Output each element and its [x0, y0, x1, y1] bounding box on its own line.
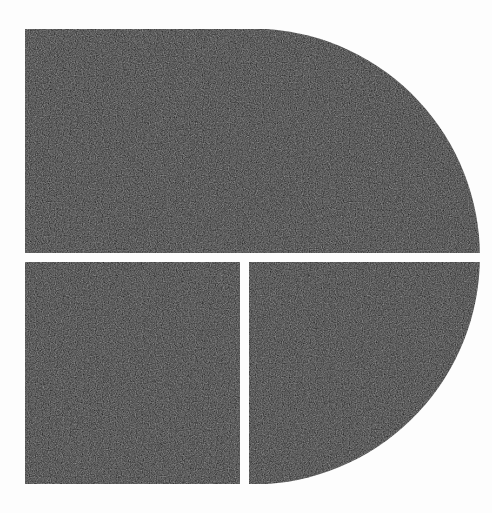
logo-mark: Stylized letter D logo composed of three… [0, 0, 492, 513]
image-canvas: Stylized letter D logo composed of three… [0, 0, 492, 513]
